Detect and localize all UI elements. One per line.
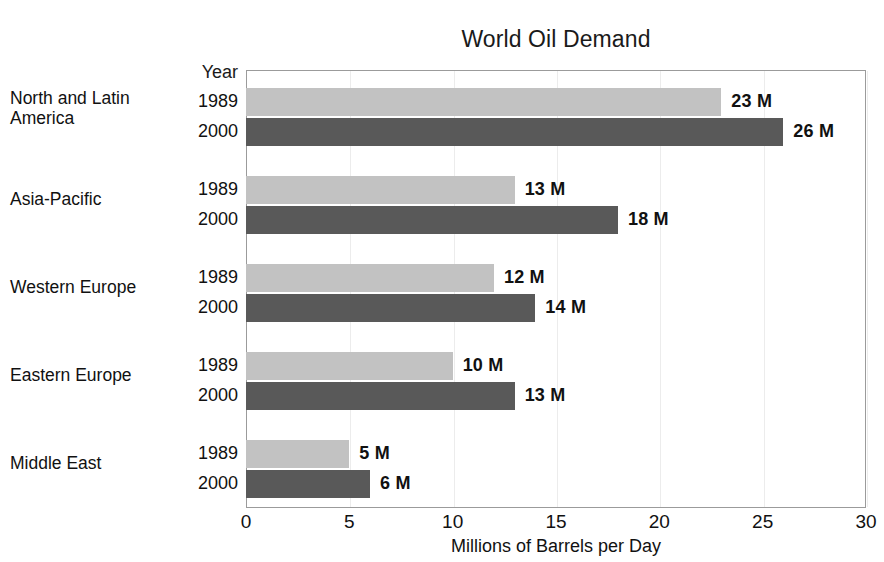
- year-label: 1989: [198, 443, 238, 464]
- x-tick-label: 30: [855, 511, 876, 533]
- chart-title: World Oil Demand: [246, 26, 866, 53]
- bar: [246, 294, 535, 322]
- bar: [246, 88, 721, 116]
- year-label: 2000: [198, 385, 238, 406]
- category-label-line: Asia-Pacific: [10, 190, 101, 210]
- x-tick-label: 5: [344, 511, 355, 533]
- x-tick-label: 10: [442, 511, 463, 533]
- bar-value-label: 6 M: [380, 473, 411, 494]
- bar-value-label: 23 M: [731, 91, 772, 112]
- bar: [246, 264, 494, 292]
- x-axis-title: Millions of Barrels per Day: [246, 536, 866, 557]
- bar: [246, 206, 618, 234]
- year-label: 1989: [198, 355, 238, 376]
- bar-value-label: 26 M: [793, 121, 834, 142]
- category-label: Western Europe: [10, 278, 136, 298]
- year-label: 1989: [198, 179, 238, 200]
- x-tick-label: 20: [649, 511, 670, 533]
- category-label: Middle East: [10, 454, 101, 474]
- bar-value-label: 10 M: [463, 355, 504, 376]
- bar-value-label: 13 M: [525, 179, 566, 200]
- year-label: 2000: [198, 209, 238, 230]
- year-label: 2000: [198, 473, 238, 494]
- gridline: [867, 71, 868, 507]
- bar: [246, 352, 453, 380]
- bar-value-label: 13 M: [525, 385, 566, 406]
- year-label: 2000: [198, 297, 238, 318]
- bar: [246, 440, 349, 468]
- year-label: 1989: [198, 91, 238, 112]
- x-tick-label: 0: [241, 511, 252, 533]
- category-label: Eastern Europe: [10, 366, 132, 386]
- category-label-line: North and Latin: [10, 89, 130, 109]
- bar: [246, 382, 515, 410]
- year-labels-column: 1989200019892000198920001989200019892000: [186, 70, 238, 508]
- bar: [246, 470, 370, 498]
- x-axis: 051015202530: [246, 508, 866, 538]
- category-label: Asia-Pacific: [10, 190, 101, 210]
- bar-value-label: 14 M: [545, 297, 586, 318]
- category-label: North and LatinAmerica: [10, 89, 130, 128]
- chart-canvas: World Oil Demand 23 M26 M13 M18 M12 M14 …: [0, 0, 884, 562]
- x-tick-label: 25: [752, 511, 773, 533]
- year-label: 2000: [198, 121, 238, 142]
- x-tick-label: 15: [545, 511, 566, 533]
- bar: [246, 176, 515, 204]
- bar-value-label: 12 M: [504, 267, 545, 288]
- category-label-line: Western Europe: [10, 278, 136, 298]
- category-labels-column: North and LatinAmericaAsia-PacificWester…: [6, 70, 182, 508]
- bar: [246, 118, 783, 146]
- category-label-line: America: [10, 109, 130, 129]
- category-label-line: Eastern Europe: [10, 366, 132, 386]
- category-label-line: Middle East: [10, 454, 101, 474]
- year-label: 1989: [198, 267, 238, 288]
- bar-value-label: 18 M: [628, 209, 669, 230]
- bars-layer: 23 M26 M13 M18 M12 M14 M10 M13 M5 M6 M: [246, 70, 866, 508]
- bar-value-label: 5 M: [359, 443, 390, 464]
